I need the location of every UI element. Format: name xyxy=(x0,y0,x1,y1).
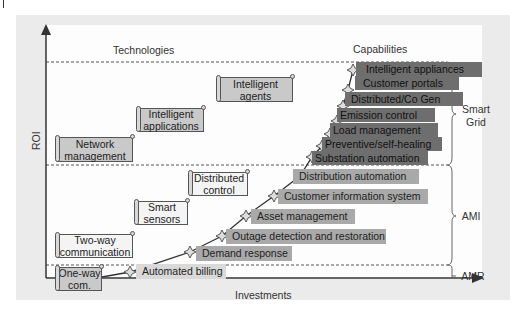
technologies-header: Technologies xyxy=(113,44,174,56)
cap-distribution-automation: Distribution automation xyxy=(293,169,419,184)
brace-amr xyxy=(447,265,452,278)
tech-distributed-control: Distributedcontrol xyxy=(190,172,248,196)
tech-intelligent-applications: Intelligentapplications xyxy=(138,108,204,132)
cap-outage-detection: Outage detection and restoration xyxy=(226,229,386,244)
cap-distributed-co-gen: Distributed/Co Gen xyxy=(345,92,463,106)
y-axis-arrow-icon xyxy=(41,24,51,35)
tier-label-amr: AMR xyxy=(458,270,488,283)
cap-asset-management: Asset management xyxy=(251,209,355,224)
tech-one-way-com: One-waycom. xyxy=(57,267,102,291)
y-axis-label: ROI xyxy=(30,131,42,150)
cap-load-management: Load management xyxy=(330,123,438,137)
x-axis-label: Investments xyxy=(235,289,292,301)
capabilities-header: Capabilities xyxy=(353,43,407,55)
tech-smart-sensors: Smartsensors xyxy=(136,201,188,225)
cap-automated-billing: Automated billing xyxy=(136,264,226,279)
cap-customer-information-system: Customer information system xyxy=(278,189,428,204)
tier-label-smart-grid: SmartGrid xyxy=(456,103,496,129)
tier-label-ami: AMI xyxy=(457,210,485,223)
tech-intelligent-agents: Intelligentagents xyxy=(218,77,293,102)
cap-demand-response: Demand response xyxy=(196,246,292,261)
cap-customer-portals: Customer portals xyxy=(355,76,459,90)
cap-substation-automation: Substation automation xyxy=(312,151,428,165)
cap-emission-control: Emission control xyxy=(337,108,435,122)
cap-intelligent-appliances: Intelligent appliances xyxy=(356,62,482,77)
brace-ami xyxy=(447,165,456,265)
tech-network-management: Networkmanagement xyxy=(57,137,133,162)
tech-two-way-communication: Two-waycommunication xyxy=(57,234,133,258)
cap-preventive-self-healing: Preventive/self-healing xyxy=(322,137,442,151)
